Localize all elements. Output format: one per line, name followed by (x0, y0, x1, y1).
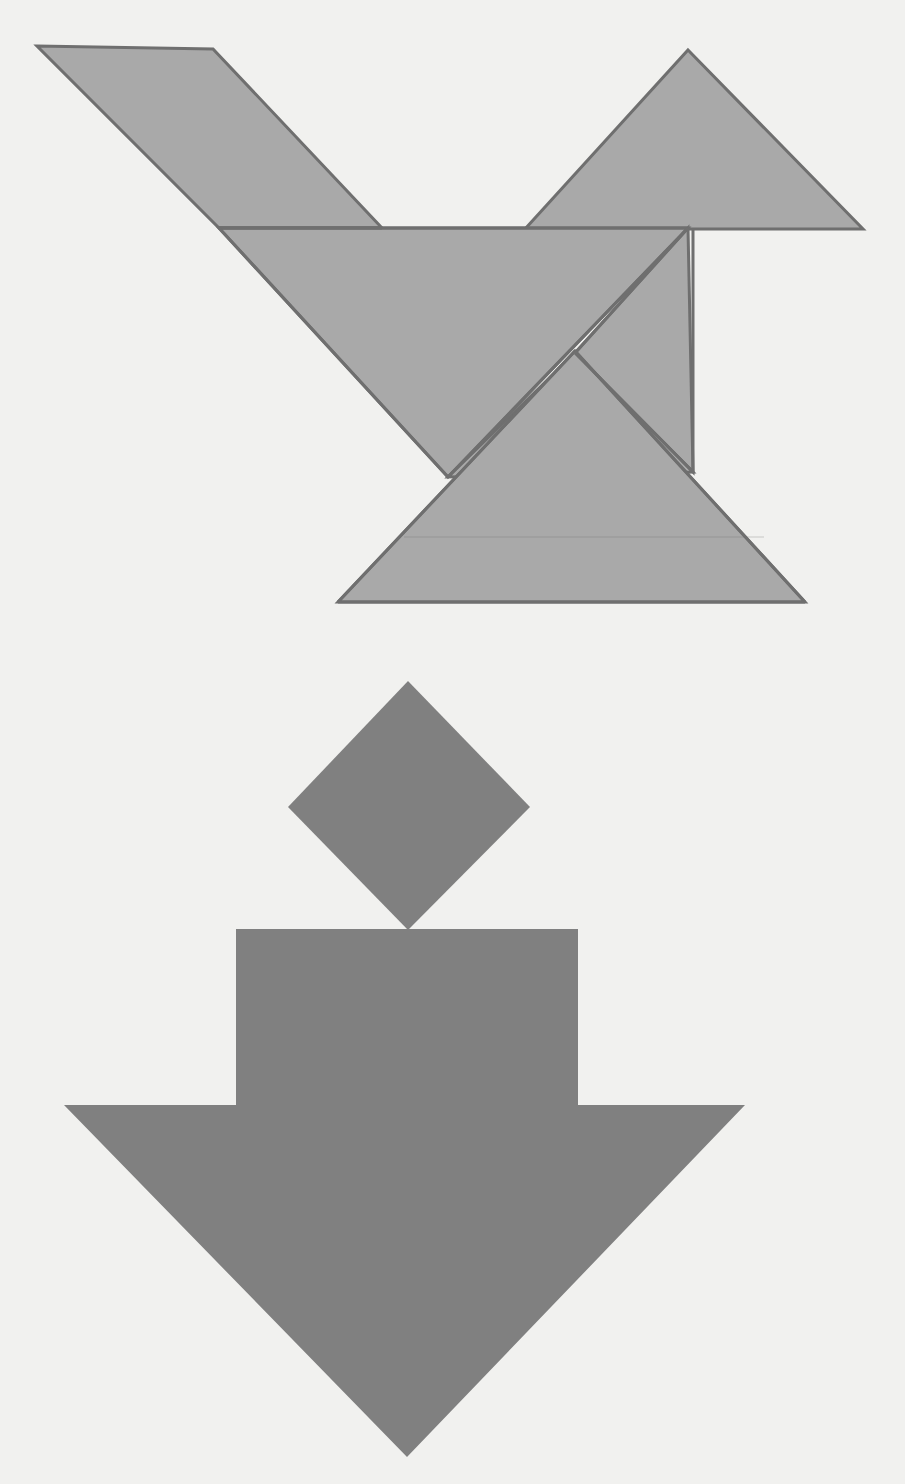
figure-canvas (0, 0, 905, 1484)
figure-svg (0, 0, 905, 1484)
